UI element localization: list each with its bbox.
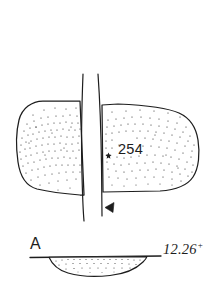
scale-value-label: 12.26+ <box>163 241 203 256</box>
scale-superscript: + <box>198 240 203 250</box>
scale-number: 12.26 <box>163 241 197 257</box>
section-cut-line-left <box>82 74 84 221</box>
artifact-figure: 254 A 12.26+ <box>0 0 223 299</box>
section-cut-line-right <box>98 74 102 216</box>
section-direction-arrow-icon <box>105 203 114 213</box>
catalog-number-label: 254 <box>118 142 143 157</box>
plan-right-fragment-outline <box>102 104 199 192</box>
plan-left-fragment-outline <box>17 101 84 195</box>
section-letter-label: A <box>30 236 41 252</box>
